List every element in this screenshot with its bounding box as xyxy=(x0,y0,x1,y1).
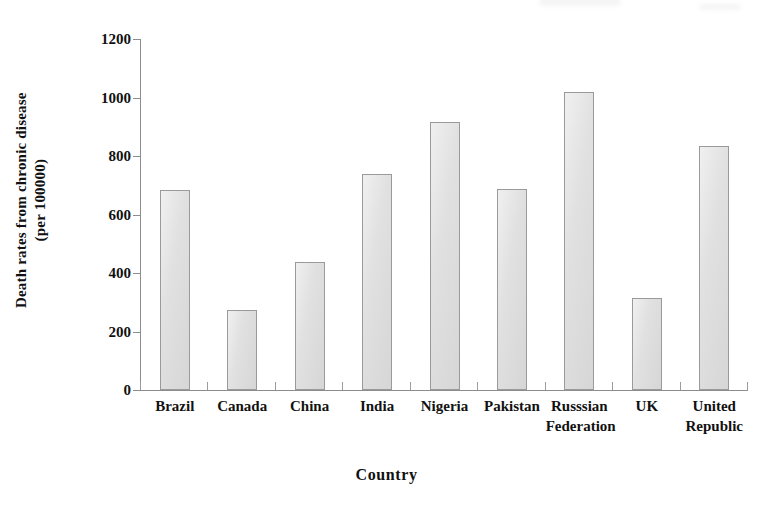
x-axis-category-label-line: India xyxy=(360,398,394,414)
x-axis-category-label: UK xyxy=(613,396,680,416)
chart-figure: Death rates from chronic disease (per 10… xyxy=(0,0,773,508)
y-axis-tick-mark xyxy=(133,273,141,274)
x-axis-category-label-line: Russsian xyxy=(551,398,608,414)
y-axis-tick-mark xyxy=(133,156,141,157)
x-axis-category-label-line: Brazil xyxy=(155,398,194,414)
x-axis-category-label: China xyxy=(276,396,343,416)
bar xyxy=(497,189,527,390)
y-axis-tick-mark xyxy=(133,332,141,333)
y-axis-tick-label: 400 xyxy=(109,265,132,282)
x-axis-category-label-line: Canada xyxy=(217,398,267,414)
y-axis-tick-label: 1200 xyxy=(101,31,131,48)
x-axis-title: Country xyxy=(0,466,773,484)
y-axis-tick-label: 200 xyxy=(109,323,132,340)
bar xyxy=(362,174,392,390)
y-axis-tick-label: 600 xyxy=(109,206,132,223)
x-axis-category-label-line: Federation xyxy=(546,416,613,436)
x-axis-category-label: Nigeria xyxy=(411,396,478,416)
x-axis-category-label: India xyxy=(343,396,410,416)
bar xyxy=(160,190,190,390)
x-axis-category-label: Pakistan xyxy=(478,396,545,416)
x-axis-category-label: Brazil xyxy=(141,396,208,416)
y-axis-title: Death rates from chronic disease (per 10… xyxy=(0,0,62,400)
bar xyxy=(564,92,594,390)
x-axis-category-label-line: UK xyxy=(636,398,659,414)
y-axis-tick-mark xyxy=(133,390,141,391)
bar-series xyxy=(141,39,748,390)
x-axis-category-label-line: United xyxy=(693,398,736,414)
bar xyxy=(227,310,257,390)
plot-area: 020040060080010001200 xyxy=(140,30,750,392)
scan-artifact xyxy=(700,4,740,10)
y-axis-tick-label: 0 xyxy=(124,382,132,399)
bar xyxy=(632,298,662,390)
x-axis-category-label: RusssianFederation xyxy=(546,396,613,437)
x-axis-category-labels: BrazilCanadaChinaIndiaNigeriaPakistanRus… xyxy=(141,396,749,462)
x-axis-category-label-line: China xyxy=(290,398,329,414)
y-axis-tick-mark xyxy=(133,215,141,216)
y-axis-tick-mark xyxy=(133,98,141,99)
x-axis-category-label: Canada xyxy=(208,396,275,416)
x-axis-category-label-line: Nigeria xyxy=(421,398,468,414)
y-axis-title-line1: Death rates from chronic disease xyxy=(13,92,29,308)
x-axis-category-label: UnitedRepublic xyxy=(681,396,748,437)
x-axis-line xyxy=(140,390,748,391)
bar xyxy=(295,262,325,390)
y-axis-title-line2: (per 100000) xyxy=(31,92,50,308)
y-axis-tick-mark xyxy=(133,39,141,40)
bar xyxy=(699,146,729,390)
y-axis-tick-label: 800 xyxy=(109,148,132,165)
y-axis-tick-label: 1000 xyxy=(101,89,131,106)
x-axis-category-label-line: Pakistan xyxy=(484,398,540,414)
scan-artifact xyxy=(540,0,620,6)
x-axis-category-label-line: Republic xyxy=(681,416,748,436)
bar xyxy=(430,122,460,390)
